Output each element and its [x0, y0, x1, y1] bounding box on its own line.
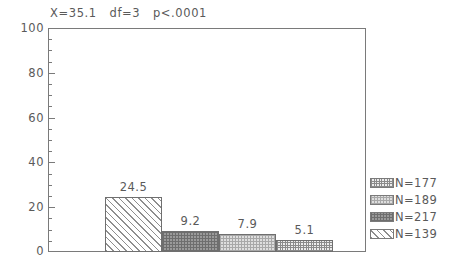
legend-item-1: N=177	[370, 174, 449, 191]
bar-3-value-label: 7.9	[219, 217, 276, 231]
y-axis-label-40: 40	[4, 155, 44, 169]
y-axis-labels: 100 80 60 40 20 0	[0, 28, 44, 252]
y-axis-label-20: 20	[4, 200, 44, 214]
legend-item-3: N=217	[370, 208, 449, 225]
bar-1	[105, 197, 162, 252]
bar-2-value-label: 9.2	[162, 214, 219, 228]
legend: N=177 N=189 N=217 N=139	[370, 174, 449, 242]
legend-swatch-icon-2	[370, 195, 394, 205]
bars-group: 24.5 9.2 7.9 5.1	[48, 28, 366, 252]
legend-item-2: N=189	[370, 191, 449, 208]
legend-label-4: N=139	[395, 227, 437, 241]
legend-swatch-icon-3	[370, 212, 394, 222]
legend-item-4: N=139	[370, 225, 449, 242]
y-axis-label-100: 100	[4, 21, 44, 35]
y-axis-label-60: 60	[4, 111, 44, 125]
bar-chart: X=35.1 df=3 p<.0001 100 80 60 40 20 0	[0, 0, 449, 279]
y-axis-label-80: 80	[4, 66, 44, 80]
bar-3	[219, 234, 276, 252]
chart-annotation-statistics: X=35.1 df=3 p<.0001	[50, 6, 207, 20]
bar-1-value-label: 24.5	[105, 180, 162, 194]
legend-label-2: N=189	[395, 193, 437, 207]
bar-4	[276, 240, 333, 252]
legend-label-1: N=177	[395, 176, 437, 190]
legend-swatch-icon-4	[370, 229, 394, 239]
legend-label-3: N=217	[395, 210, 437, 224]
bar-2	[162, 231, 219, 252]
y-axis-label-0: 0	[4, 244, 44, 258]
bar-4-value-label: 5.1	[276, 223, 333, 237]
legend-swatch-icon-1	[370, 178, 394, 188]
